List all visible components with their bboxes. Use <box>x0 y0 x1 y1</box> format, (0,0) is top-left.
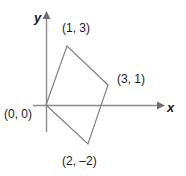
vertex-label-3-1: (3, 1) <box>117 73 145 85</box>
axes-group <box>33 11 165 132</box>
quadrilateral-shape <box>46 46 108 144</box>
x-axis-label: x <box>167 101 174 114</box>
quadrilateral-outline <box>46 46 108 144</box>
y-axis-label: y <box>34 11 41 24</box>
vertex-label-2-neg2: (2, –2) <box>62 155 97 167</box>
vertex-label-1-3: (1, 3) <box>62 22 90 34</box>
coordinate-plane-figure: y x (1, 3) (3, 1) (0, 0) (2, –2) <box>0 0 186 176</box>
x-axis-arrowhead <box>157 102 165 110</box>
y-axis-arrowhead <box>43 11 51 19</box>
graph-canvas <box>0 0 186 176</box>
vertex-label-0-0: (0, 0) <box>4 108 32 120</box>
